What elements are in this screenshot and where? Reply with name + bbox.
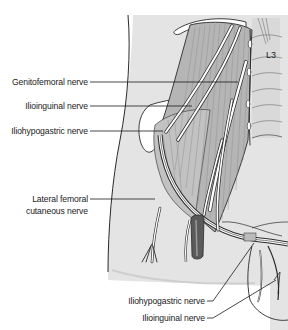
vertebra-label: L3: [266, 50, 276, 60]
label-lateral-femoral-line2: cutaneous nerve: [26, 206, 88, 216]
anatomy-diagram: L3: [0, 0, 288, 330]
vertebral-column: [252, 18, 282, 138]
label-genitofemoral-nerve: Genitofemoral nerve: [12, 77, 88, 87]
label-iliohypogastric-nerve-lower: Iliohypogastric nerve: [128, 296, 205, 306]
label-lateral-femoral-line1: Lateral femoral: [32, 194, 88, 204]
label-ilioinguinal-nerve-upper: Ilioinguinal nerve: [25, 101, 88, 111]
label-iliohypogastric-nerve-upper: Iliohypogastric nerve: [11, 126, 88, 136]
label-ilioinguinal-nerve-lower: Ilioinguinal nerve: [142, 313, 205, 323]
